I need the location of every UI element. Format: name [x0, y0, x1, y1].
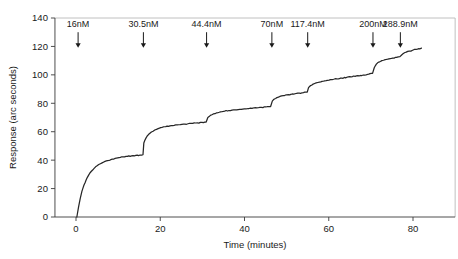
injection-label: 16nM — [67, 19, 90, 29]
y-tick-label: 20 — [37, 183, 48, 194]
injection-arrow-head — [398, 43, 403, 48]
binding-kinetics-chart: 020406080100120140020406080Time (minutes… — [0, 0, 458, 259]
y-tick-label: 80 — [37, 98, 48, 109]
x-tick-label: 60 — [323, 223, 334, 234]
injection-arrow-head — [204, 43, 209, 48]
x-tick-label: 80 — [408, 223, 419, 234]
y-tick-label: 120 — [32, 41, 48, 52]
injection-label: 117.4nM — [291, 19, 325, 29]
injection-label: 30.5nM — [128, 19, 158, 29]
x-tick-label: 40 — [239, 223, 250, 234]
y-tick-label: 140 — [32, 12, 48, 23]
y-tick-label: 60 — [37, 126, 48, 137]
injection-arrow-head — [76, 43, 81, 48]
plot-frame — [55, 18, 455, 217]
x-axis-title: Time (minutes) — [224, 239, 287, 250]
injection-label: 288.9nM — [383, 19, 418, 29]
chart-figure: 020406080100120140020406080Time (minutes… — [0, 0, 458, 259]
injection-arrow-head — [305, 43, 310, 48]
injection-arrow-head — [141, 43, 146, 48]
injection-arrow-head — [269, 43, 274, 48]
y-tick-label: 100 — [32, 69, 48, 80]
y-axis-title: Response (arc seconds) — [7, 66, 18, 169]
response-trace — [77, 48, 422, 217]
x-tick-label: 0 — [73, 223, 78, 234]
y-tick-label: 0 — [43, 211, 48, 222]
y-tick-label: 40 — [37, 155, 48, 166]
injection-arrow-head — [370, 43, 375, 48]
injection-label: 44.4nM — [192, 19, 222, 29]
x-tick-label: 20 — [155, 223, 166, 234]
injection-label: 70nM — [261, 19, 284, 29]
